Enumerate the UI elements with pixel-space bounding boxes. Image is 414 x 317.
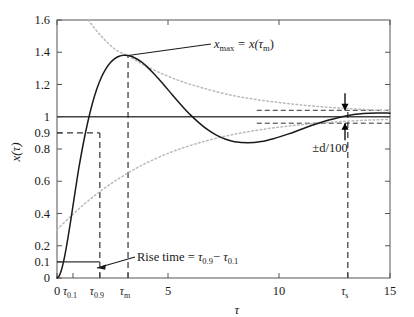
svg-text:5: 5 — [165, 284, 171, 298]
svg-text:0: 0 — [54, 284, 60, 298]
svg-text:0.1: 0.1 — [34, 255, 50, 269]
svg-text:1.6: 1.6 — [34, 13, 50, 27]
svg-text:0.6: 0.6 — [34, 174, 50, 188]
svg-text:0.2: 0.2 — [34, 239, 50, 253]
svg-text:0.4: 0.4 — [34, 207, 50, 221]
svg-text:1.4: 1.4 — [34, 45, 50, 59]
risetime-annotation-label: Rise time = τ0.9− τ0.1 — [137, 250, 238, 266]
step-response-chart: 00.10.20.40.60.80.911.21.41.6 051015 τ0.… — [0, 0, 414, 317]
svg-text:1: 1 — [44, 110, 50, 124]
svg-text:0.8: 0.8 — [34, 142, 50, 156]
svg-text:1.2: 1.2 — [34, 78, 50, 92]
settling-band-label: ±d/100 — [312, 141, 347, 155]
svg-text:0: 0 — [44, 271, 50, 285]
svg-text:15: 15 — [384, 284, 397, 298]
svg-text:10: 10 — [273, 284, 286, 298]
svg-text:0.9: 0.9 — [34, 126, 50, 140]
y-axis-title: x(τ) — [8, 142, 23, 162]
figure-container: 00.10.20.40.60.80.911.21.41.6 051015 τ0.… — [0, 0, 414, 317]
